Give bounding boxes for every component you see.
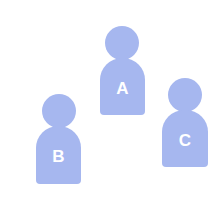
person-head-icon xyxy=(105,26,139,60)
person-label: A xyxy=(116,79,128,99)
person-head-icon xyxy=(42,94,76,128)
person-body-icon: C xyxy=(162,110,208,167)
person-body-icon: B xyxy=(36,126,81,184)
person-head-icon xyxy=(168,78,202,112)
diagram-canvas: A B C xyxy=(0,0,224,198)
person-body-icon: A xyxy=(100,58,145,115)
person-label: C xyxy=(179,131,191,151)
person-label: B xyxy=(52,147,64,167)
